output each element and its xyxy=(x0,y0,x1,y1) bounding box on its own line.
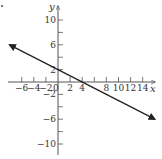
chart-canvas: −6−4−20248101214 1062−2−6−10 x y xyxy=(0,0,162,159)
y-axis-label: y xyxy=(48,1,55,12)
x-ticks: −6−4−20248101214 xyxy=(15,77,149,93)
x-tick-label: 4 xyxy=(79,83,85,93)
y-tick-label: −2 xyxy=(43,89,56,99)
y-tick-label: −6 xyxy=(43,114,57,124)
corner-mark xyxy=(1,5,3,7)
x-tick-label: 8 xyxy=(104,83,110,93)
x-tick-label: 14 xyxy=(137,83,149,93)
y-tick-label: 10 xyxy=(45,15,57,25)
x-tick-label: 2 xyxy=(67,83,73,93)
y-tick-label: 6 xyxy=(50,40,56,50)
y-tick-label: −10 xyxy=(37,139,56,149)
x-tick-label: 10 xyxy=(113,83,125,93)
x-axis-label: x xyxy=(150,83,156,94)
x-tick-label: 12 xyxy=(125,83,136,93)
